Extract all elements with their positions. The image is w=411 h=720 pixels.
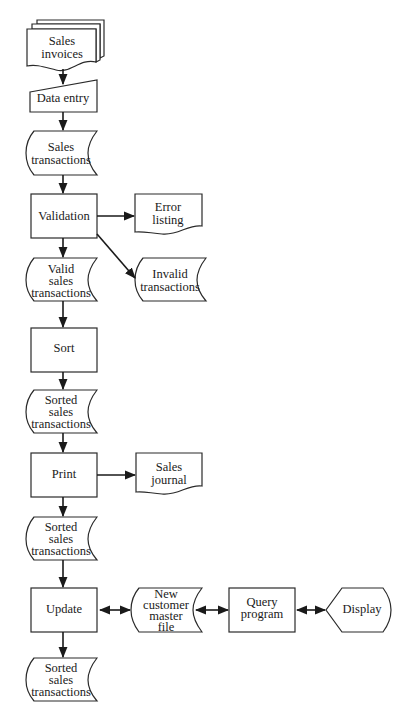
svg-text:Invalid: Invalid <box>152 267 188 281</box>
label-line: Print <box>52 467 77 481</box>
svg-text:journal: journal <box>150 473 187 487</box>
label-line: Sales <box>48 140 75 154</box>
label-line: Sales <box>49 34 76 48</box>
label-line: transactions <box>31 685 91 699</box>
svg-text:Sales: Sales <box>156 460 183 474</box>
label-line: Update <box>46 602 83 616</box>
svg-text:transactions: transactions <box>31 286 91 300</box>
svg-text:transactions: transactions <box>31 153 91 167</box>
label-line: transactions <box>31 417 91 431</box>
node-update: Update <box>31 588 97 632</box>
node-sort: Sort <box>31 328 97 372</box>
label-line: transactions <box>31 544 91 558</box>
node-sorted-sales-transactions-2: Sorted sales transactions <box>26 517 97 560</box>
label-line: Data entry <box>37 91 90 105</box>
svg-text:file: file <box>158 620 175 634</box>
svg-text:Update: Update <box>46 602 83 616</box>
svg-text:program: program <box>241 607 284 621</box>
flowchart-canvas: Sales invoices Data entry Sales transact… <box>0 0 411 720</box>
label-line: Sales <box>156 460 183 474</box>
arrow-validation-to-invalid <box>97 234 135 278</box>
label-line: Error <box>155 200 182 214</box>
label-line: transactions <box>31 286 91 300</box>
svg-text:Sales: Sales <box>49 34 76 48</box>
node-sales-transactions: Sales transactions <box>26 131 97 175</box>
node-print: Print <box>31 453 97 497</box>
label-line: transactions <box>31 153 91 167</box>
node-error-listing: Error listing <box>135 194 202 234</box>
node-validation: Validation <box>31 194 97 238</box>
node-sales-invoices: Sales invoices <box>27 20 104 71</box>
label-line: file <box>158 620 175 634</box>
svg-text:invoices: invoices <box>41 47 83 61</box>
node-sorted-sales-transactions-3: Sorted sales transactions <box>26 658 97 701</box>
label-line: journal <box>150 473 187 487</box>
node-sales-journal: Sales journal <box>136 453 202 494</box>
label-line: transactions <box>140 280 200 294</box>
label-line: program <box>241 607 284 621</box>
label-line: listing <box>152 213 184 227</box>
label-line: invoices <box>41 47 83 61</box>
svg-text:Sort: Sort <box>54 341 75 355</box>
svg-text:Print: Print <box>52 467 77 481</box>
svg-text:Validation: Validation <box>38 209 90 223</box>
node-valid-sales-transactions: Valid sales transactions <box>26 258 97 301</box>
svg-text:listing: listing <box>152 213 184 227</box>
svg-text:transactions: transactions <box>31 685 91 699</box>
label-line: Invalid <box>152 267 188 281</box>
label-line: Sort <box>54 341 75 355</box>
svg-text:Data entry: Data entry <box>37 91 90 105</box>
node-data-entry: Data entry <box>30 80 97 112</box>
node-invalid-transactions: Invalid transactions <box>135 258 206 301</box>
svg-text:Error: Error <box>155 200 182 214</box>
svg-text:transactions: transactions <box>31 417 91 431</box>
node-display: Display <box>326 588 391 632</box>
label-line: Validation <box>38 209 90 223</box>
svg-text:transactions: transactions <box>31 544 91 558</box>
svg-text:Sales: Sales <box>48 140 75 154</box>
node-query-program: Query program <box>229 588 295 632</box>
node-sorted-sales-transactions-1: Sorted sales transactions <box>26 390 97 433</box>
label-line: Display <box>343 602 383 616</box>
edges <box>63 69 325 657</box>
node-new-customer-master-file: New customer master file <box>131 587 202 634</box>
svg-text:Display: Display <box>343 602 383 616</box>
svg-text:transactions: transactions <box>140 280 200 294</box>
